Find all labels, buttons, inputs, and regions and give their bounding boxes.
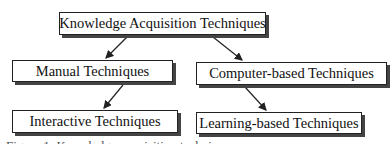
edge-root-manual	[106, 37, 127, 58]
node-interactive-techniques: Interactive Techniques	[12, 110, 178, 133]
node-knowledge-acquisition: Knowledge Acquisition Techniques	[59, 12, 266, 35]
edge-manual-interactive	[104, 85, 123, 108]
node-learning-based-techniques: Learning-based Techniques	[196, 112, 362, 134]
node-computer-based-techniques: Computer-based Techniques	[196, 62, 387, 85]
figure-caption: Figure 1: Knowledge acquisition techniqu…	[6, 138, 236, 144]
edge-root-computer	[213, 37, 242, 60]
edge-computer-learning	[245, 87, 266, 110]
node-manual-techniques: Manual Techniques	[12, 60, 173, 82]
